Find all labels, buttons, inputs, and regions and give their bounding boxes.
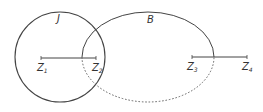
label-z4: Z4 [241,61,253,73]
label-z1: Z1 [36,62,48,74]
circle-j [15,12,105,102]
ellipse-b-lower [82,57,214,102]
set-diagram: J B Z1 Z2 Z3 Z4 [0,0,263,112]
label-z3: Z3 [186,61,198,73]
label-j: J [55,13,60,24]
label-z2: Z2 [91,62,103,74]
label-b: B [147,14,154,25]
